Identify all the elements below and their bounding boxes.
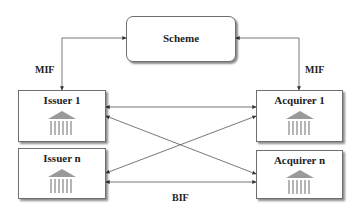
mif-right-connector bbox=[236, 38, 299, 90]
bank-icon bbox=[285, 170, 315, 196]
mif-right-label: MIF bbox=[305, 64, 324, 75]
bif-label: BIF bbox=[172, 192, 189, 203]
acquirer-1-label: Acquirer 1 bbox=[257, 94, 342, 106]
scheme-node: Scheme bbox=[126, 16, 236, 62]
issuer-n-label: Issuer n bbox=[19, 152, 105, 164]
acquirer-1-node: Acquirer 1 bbox=[256, 90, 343, 142]
mif-left-connector bbox=[62, 38, 126, 90]
acquirer-n-label: Acquirer n bbox=[257, 154, 342, 166]
scheme-label: Scheme bbox=[127, 32, 235, 44]
bank-icon bbox=[47, 111, 77, 137]
mif-left-label: MIF bbox=[35, 64, 54, 75]
issuer-1-node: Issuer 1 bbox=[18, 90, 106, 142]
issuer-1-label: Issuer 1 bbox=[19, 94, 105, 106]
diagram-canvas: Scheme Issuer 1 Issuer n Acquirer 1 bbox=[0, 0, 361, 214]
issuer-n-node: Issuer n bbox=[18, 148, 106, 199]
acquirer-n-node: Acquirer n bbox=[256, 150, 343, 199]
bank-icon bbox=[285, 111, 315, 137]
bank-icon bbox=[47, 169, 77, 195]
